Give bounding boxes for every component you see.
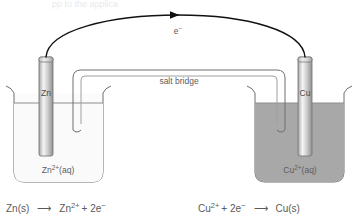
left-beaker-lip-left — [6, 86, 14, 93]
copper-electrode-bar — [298, 57, 312, 156]
salt-bridge-group: salt bridge — [73, 70, 285, 132]
zinc-electrode-label: Zn — [41, 88, 51, 98]
right-beaker-lip-right — [344, 86, 352, 93]
zinc-electrode-group: Zn — [39, 57, 53, 156]
electron-flow-wire-right-half — [178, 15, 305, 57]
copper-electrode-group: Cu — [298, 57, 312, 156]
electron-wire-group: e− — [46, 15, 305, 57]
galvanic-cell-figure: pp to the applica Zn2+(aq) — [0, 0, 358, 224]
electron-label: e− — [174, 25, 183, 37]
right-beaker-lip-left — [247, 86, 255, 93]
left-beaker-group: Zn2+(aq) — [6, 86, 111, 182]
cut-off-header-text: pp to the applica — [52, 0, 118, 9]
right-half-reaction-equation: Cu2++ 2e−⟶Cu(s) — [198, 201, 300, 214]
copper-electrode-cap — [298, 57, 312, 62]
galvanic-cell-diagram: pp to the applica Zn2+(aq) — [0, 0, 358, 224]
left-half-reaction-equation: Zn(s)⟶Zn2++ 2e− — [6, 201, 106, 214]
salt-bridge-label: salt bridge — [159, 76, 198, 86]
electron-flow-arrow-left-half — [46, 15, 178, 57]
left-beaker-lip-right — [103, 86, 111, 93]
zinc-electrode-cap — [39, 57, 53, 62]
zinc-electrode-bar — [39, 57, 53, 156]
copper-electrode-label: Cu — [300, 88, 311, 98]
